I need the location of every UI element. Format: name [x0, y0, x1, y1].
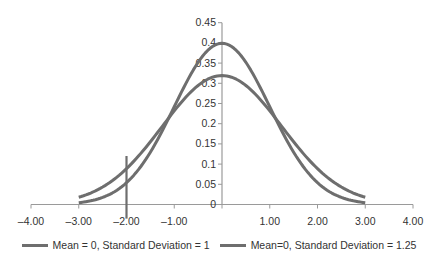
chart-canvas: –4.00–3.00–2.00–1.001.002.003.004.00 00.… — [0, 0, 438, 235]
legend-swatch-sd-1-25 — [220, 244, 246, 247]
x-tick-label: –4.00 — [18, 215, 44, 227]
legend: Mean = 0, Standard Deviation = 1 Mean=0,… — [0, 237, 438, 253]
y-tick-label: 0.05 — [196, 178, 217, 190]
legend-item-sd-1-25: Mean=0, Standard Deviation = 1.25 — [220, 239, 417, 251]
legend-swatch-sd-1 — [22, 244, 48, 247]
y-tick-label: 0.1 — [201, 158, 216, 170]
y-tick-label: 0.15 — [196, 137, 217, 149]
x-tick-label: 2.00 — [307, 215, 328, 227]
x-axis: –4.00–3.00–2.00–1.001.002.003.004.00 — [18, 205, 424, 227]
legend-label-sd-1-25: Mean=0, Standard Deviation = 1.25 — [251, 239, 417, 251]
x-tick-label: –3.00 — [66, 215, 92, 227]
y-tick-label: 0.2 — [201, 117, 216, 129]
x-tick-label: 3.00 — [355, 215, 376, 227]
legend-label-sd-1: Mean = 0, Standard Deviation = 1 — [53, 239, 210, 251]
legend-item-sd-1: Mean = 0, Standard Deviation = 1 — [22, 239, 210, 251]
x-tick-label: 1.00 — [260, 215, 281, 227]
y-tick-label: 0 — [210, 198, 216, 210]
y-tick-label: 0.25 — [196, 97, 217, 109]
x-tick-label: –1.00 — [161, 215, 187, 227]
x-tick-label: 4.00 — [403, 215, 424, 227]
y-tick-label: 0.45 — [196, 16, 217, 28]
